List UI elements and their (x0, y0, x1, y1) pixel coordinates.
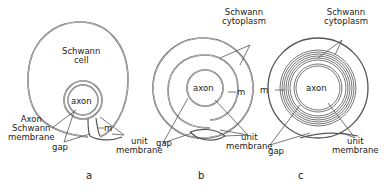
label-unit-membrane-b: unit membrane (226, 133, 273, 151)
label-axon-b: axon (193, 84, 214, 93)
label-schwann-cell: Schwann cell (62, 47, 100, 65)
label-axon-schwann-membrane: Axon Schwann membrane (8, 115, 55, 142)
label-gap-b: gap (156, 139, 172, 148)
label-schwann-cytoplasm-b: Schwann cytoplasm (222, 8, 266, 26)
panel-label-c: c (298, 170, 304, 181)
panel-label-a: a (86, 170, 92, 181)
label-m-a: m (104, 124, 112, 133)
label-m-c: m (260, 86, 268, 95)
label-gap-a: gap (52, 143, 68, 152)
label-schwann-cytoplasm-c: Schwann cytoplasm (324, 8, 368, 26)
label-unit-membrane-c: unit membrane (332, 137, 379, 155)
panel-label-b: b (198, 170, 204, 181)
label-axon-c: axon (306, 84, 327, 93)
myelination-diagram (0, 0, 392, 192)
label-gap-c: gap (268, 147, 284, 156)
label-m-b: m (237, 88, 245, 97)
label-axon-a: axon (71, 97, 92, 106)
